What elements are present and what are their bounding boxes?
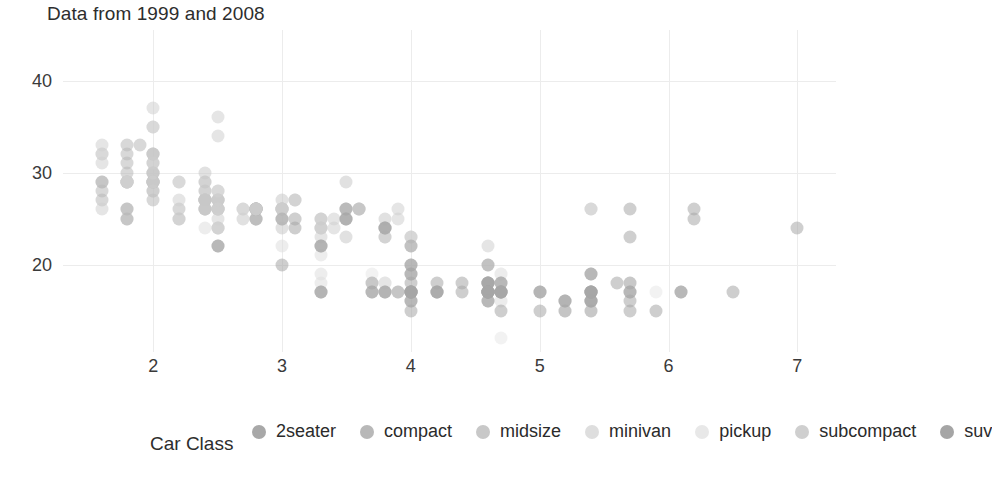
- data-point: [327, 221, 340, 234]
- legend-item-label: midsize: [500, 421, 561, 442]
- legend: Car Class 2seatercompactmidsizeminivanpi…: [0, 404, 836, 499]
- x-tick-label: 5: [535, 356, 545, 377]
- gridline-horizontal: [63, 173, 836, 174]
- data-point: [482, 258, 495, 271]
- data-point: [495, 304, 508, 317]
- data-point: [237, 203, 250, 216]
- legend-item-label: subcompact: [819, 421, 916, 442]
- data-point: [456, 286, 469, 299]
- data-point: [250, 203, 263, 216]
- data-point: [314, 221, 327, 234]
- data-point: [314, 240, 327, 253]
- data-point: [211, 240, 224, 253]
- legend-title: Car Class: [150, 433, 233, 455]
- data-point: [649, 304, 662, 317]
- x-axis: 234567: [63, 356, 836, 382]
- x-tick-label: 7: [792, 356, 802, 377]
- y-tick-label: 40: [8, 70, 52, 91]
- data-point: [211, 129, 224, 142]
- data-point: [353, 203, 366, 216]
- legend-item-pickup[interactable]: pickup: [695, 416, 771, 447]
- data-point: [495, 286, 508, 299]
- legend-item-subcompact[interactable]: subcompact: [795, 416, 916, 447]
- legend-item-label: 2seater: [276, 421, 336, 442]
- legend-item-midsize[interactable]: midsize: [476, 416, 561, 447]
- data-point: [391, 212, 404, 225]
- data-point: [172, 175, 185, 188]
- legend-swatch-icon: [795, 425, 809, 439]
- data-point: [533, 286, 546, 299]
- data-point: [95, 203, 108, 216]
- x-tick-label: 3: [277, 356, 287, 377]
- legend-swatch-icon: [585, 425, 599, 439]
- data-point: [340, 212, 353, 225]
- data-point: [585, 267, 598, 280]
- x-tick-label: 4: [406, 356, 416, 377]
- legend-item-minivan[interactable]: minivan: [585, 416, 671, 447]
- data-point: [623, 231, 636, 244]
- data-point: [211, 111, 224, 124]
- legend-swatch-icon: [252, 425, 266, 439]
- data-point: [276, 240, 289, 253]
- data-point: [134, 139, 147, 152]
- data-point: [649, 286, 662, 299]
- data-point: [314, 286, 327, 299]
- gridline-horizontal: [63, 81, 836, 82]
- data-point: [559, 304, 572, 317]
- legend-item-2seater[interactable]: 2seater: [252, 416, 336, 447]
- data-point: [675, 286, 688, 299]
- gridline-horizontal: [63, 265, 836, 266]
- y-tick-label: 30: [8, 162, 52, 183]
- x-tick-label: 2: [148, 356, 158, 377]
- data-point: [379, 221, 392, 234]
- data-point: [404, 267, 417, 280]
- data-point: [404, 286, 417, 299]
- data-point: [482, 240, 495, 253]
- data-point: [147, 120, 160, 133]
- data-point: [610, 277, 623, 290]
- data-point: [726, 286, 739, 299]
- data-point: [198, 221, 211, 234]
- gridline-vertical: [797, 30, 798, 352]
- data-point: [791, 221, 804, 234]
- data-point: [288, 221, 301, 234]
- data-point: [404, 240, 417, 253]
- data-point: [172, 212, 185, 225]
- data-point: [404, 304, 417, 317]
- data-point: [288, 194, 301, 207]
- data-point: [585, 286, 598, 299]
- gridline-vertical: [282, 30, 283, 352]
- legend-swatch-icon: [476, 425, 490, 439]
- data-point: [95, 157, 108, 170]
- data-point: [340, 175, 353, 188]
- data-point: [198, 175, 211, 188]
- data-point: [172, 194, 185, 207]
- data-point: [121, 175, 134, 188]
- y-tick-label: 20: [8, 254, 52, 275]
- data-point: [211, 194, 224, 207]
- gridline-vertical: [669, 30, 670, 352]
- legend-keys: 2seatercompactmidsizeminivanpickupsubcom…: [252, 416, 992, 447]
- legend-item-label: minivan: [609, 421, 671, 442]
- legend-swatch-icon: [360, 425, 374, 439]
- legend-swatch-icon: [695, 425, 709, 439]
- data-point: [430, 286, 443, 299]
- data-point: [533, 304, 546, 317]
- data-point: [623, 203, 636, 216]
- data-point: [495, 332, 508, 345]
- data-point: [688, 212, 701, 225]
- data-point: [340, 231, 353, 244]
- data-point: [379, 286, 392, 299]
- data-point: [623, 286, 636, 299]
- data-point: [121, 212, 134, 225]
- data-point: [147, 175, 160, 188]
- data-point: [276, 258, 289, 271]
- plot-panel: [63, 30, 836, 352]
- data-point: [147, 148, 160, 161]
- legend-item-suv[interactable]: suv: [940, 416, 992, 447]
- data-point: [147, 102, 160, 115]
- legend-item-compact[interactable]: compact: [360, 416, 452, 447]
- data-point: [391, 286, 404, 299]
- y-axis: 203040: [0, 30, 52, 352]
